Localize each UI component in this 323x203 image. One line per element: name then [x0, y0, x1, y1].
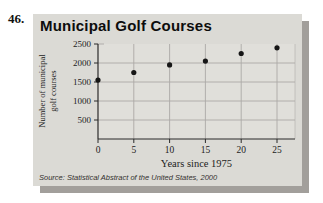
data-point [95, 78, 100, 83]
x-tick-label: 0 [96, 145, 101, 155]
data-point [131, 70, 136, 75]
x-tick-label: 15 [201, 145, 211, 155]
data-point [167, 62, 172, 67]
x-tick-label: 5 [131, 145, 136, 155]
x-tick-label: 10 [165, 145, 175, 155]
data-point [274, 45, 279, 50]
data-point [239, 51, 244, 56]
y-tick-label: 500 [78, 115, 92, 125]
problem-number: 46. [8, 11, 24, 27]
chart-panel: Municipal Golf Courses Number of municip… [33, 14, 302, 186]
data-point [203, 59, 208, 64]
source-caption: Source: Statistical Abstract of the Unit… [39, 173, 217, 182]
x-tick-label: 20 [236, 145, 246, 155]
page: 46. Municipal Golf Courses Number of mun… [0, 0, 323, 203]
plot-area [98, 44, 295, 139]
x-tick-label: 25 [272, 145, 282, 155]
y-tick-label: 2500 [73, 39, 92, 49]
y-tick-label: 1000 [73, 96, 92, 106]
y-tick-label: 1500 [73, 77, 92, 87]
y-tick-label: 2000 [73, 58, 92, 68]
x-axis-label: Years since 1975 [98, 158, 295, 169]
